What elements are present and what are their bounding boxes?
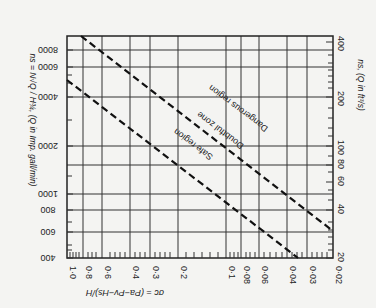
y-left-tick-label: 6000	[38, 62, 58, 72]
chart-canvas: 1·00·80·60·40·30·20·10·080·060·040·030·0…	[0, 0, 376, 308]
y-right-tick-label: 60	[336, 176, 346, 186]
x-tick-label: 0·02	[334, 266, 344, 284]
y-left-tick-label: 400	[40, 253, 55, 263]
y-right-tick-label: 40	[336, 204, 346, 214]
y-left-tick-label: 8000	[38, 45, 58, 55]
y-left-tick-label: 2000	[38, 141, 58, 151]
x-tick-labels: 1·00·80·60·40·30·20·10·080·060·040·030·0…	[68, 266, 344, 284]
x-tick-label: 0·3	[151, 266, 161, 279]
y-left-tick-label: 800	[40, 205, 55, 215]
y-left-tick-label: 4000	[38, 92, 58, 102]
x-tick-label: 0·2	[179, 266, 189, 279]
x-tick-label: 0·04	[288, 266, 298, 284]
x-tick-label: 0·4	[131, 266, 141, 279]
x-tick-label: 0·8	[84, 266, 94, 279]
y-right-tick-label: 200	[336, 91, 346, 106]
x-tick-label: 0·06	[260, 266, 270, 284]
y-right-tick-label: 400	[336, 36, 346, 51]
y-left-tick-label: 600	[40, 227, 55, 237]
y-left-tick-labels: 80006000400020001000800600400	[38, 45, 58, 263]
y-right-tick-labels: 40020010080604020	[336, 36, 346, 262]
x-tick-label: 0·03	[308, 266, 318, 284]
y-right-tick-label: 20	[336, 252, 346, 262]
y-left-tick-label: 1000	[38, 189, 58, 199]
y-right-axis-title: ns, (Q in ft³/s)	[356, 59, 366, 111]
y-right-tick-label: 100	[336, 140, 346, 155]
x-tick-label: 0·1	[227, 266, 237, 279]
x-tick-label: 1·0	[68, 266, 78, 279]
cavitation-chart: 1·00·80·60·40·30·20·10·080·060·040·030·0…	[0, 0, 376, 308]
y-left-axis-title: ns = N√Q / H¾, (Q in Imp. gall/min)	[28, 54, 38, 187]
y-right-tick-label: 80	[336, 159, 346, 169]
dangerous-boundary-line	[81, 36, 333, 231]
x-tick-label: 0·6	[103, 266, 113, 279]
x-tick-label: 0·08	[242, 266, 252, 284]
x-axis-title: σc = (Pa−Pv−Hs)/H	[85, 288, 164, 298]
